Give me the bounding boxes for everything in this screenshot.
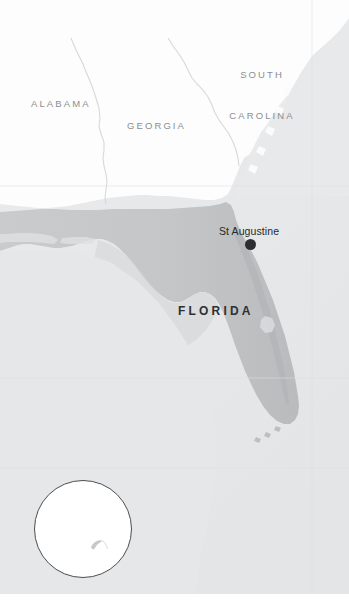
map-figure: ALABAMA GEORGIA SOUTH CAROLINA FLORIDA S… <box>0 0 349 614</box>
inset-detail-sketch-icon <box>90 538 110 554</box>
city-marker-st-augustine-icon[interactable] <box>245 239 256 250</box>
inset-detail-circle[interactable] <box>34 480 132 578</box>
